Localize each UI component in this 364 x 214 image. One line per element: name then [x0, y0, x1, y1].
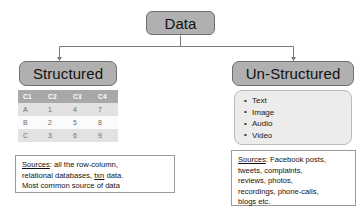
sources-line-text: Facebook posts, [268, 155, 326, 164]
sources-line: reviews, photos, [238, 176, 350, 187]
unstructured-sources-note: Sources: Facebook posts, tweets, complai… [231, 150, 356, 206]
sources-line: blogs etc. [238, 197, 350, 208]
sources-line: relational databases, txn data. [22, 171, 169, 182]
table-cell: B [18, 116, 43, 129]
structured-example-table: C1 C2 C3 C4 A 1 4 7 B 2 5 8 C 3 6 [18, 90, 118, 142]
structured-sources-note: Sources: all the row-column, relational … [15, 155, 175, 193]
table-cell: 5 [68, 116, 93, 129]
list-item: Text [252, 95, 351, 107]
table-column-header: C2 [43, 90, 68, 103]
list-item: Audio [252, 118, 351, 130]
table-cell: 3 [43, 129, 68, 142]
sources-label: Sources [22, 160, 50, 169]
sources-line: Most common source of data [22, 181, 169, 192]
list-item: Video [252, 130, 351, 142]
table-column-header: C4 [93, 90, 118, 103]
node-unstructured-label: Un-Structured [246, 66, 341, 81]
table-cell: 8 [93, 116, 118, 129]
sources-line-text: all the row-column, [52, 160, 118, 169]
sources-line-underlined: txn [94, 171, 104, 180]
table-cell: 6 [68, 129, 93, 142]
sources-line-suffix: data. [104, 171, 123, 180]
unstructured-bullet-list: Text Image Audio Video [235, 95, 351, 141]
table-cell: 9 [93, 129, 118, 142]
table-column-header: C1 [18, 90, 43, 103]
table-row: A 1 4 7 [18, 103, 118, 116]
table-cell: A [18, 103, 43, 116]
table-row: B 2 5 8 [18, 116, 118, 129]
sources-line: Sources: all the row-column, [22, 160, 169, 171]
table-row: C 3 6 9 [18, 129, 118, 142]
table-cell: 4 [68, 103, 93, 116]
node-structured-label: Structured [33, 66, 103, 81]
node-structured: Structured [19, 61, 117, 86]
sources-line: recordings, phone-calls, [238, 187, 350, 198]
table-cell: 7 [93, 103, 118, 116]
unstructured-bullet-box: Text Image Audio Video [234, 90, 352, 145]
sources-line: Sources: Facebook posts, [238, 155, 350, 166]
table-column-header: C3 [68, 90, 93, 103]
table-cell: 1 [43, 103, 68, 116]
table-cell: 2 [43, 116, 68, 129]
node-data: Data [146, 11, 215, 35]
list-item: Image [252, 107, 351, 119]
node-unstructured: Un-Structured [232, 61, 354, 86]
diagram-canvas: Data Structured Un-Structured C1 C2 C3 C… [0, 0, 364, 214]
table-cell: C [18, 129, 43, 142]
node-data-label: Data [164, 16, 196, 31]
sources-label: Sources [238, 155, 266, 164]
sources-line: tweets, complaints, [238, 166, 350, 177]
sources-line-prefix: relational databases, [22, 171, 94, 180]
table-header-row: C1 C2 C3 C4 [18, 90, 118, 103]
